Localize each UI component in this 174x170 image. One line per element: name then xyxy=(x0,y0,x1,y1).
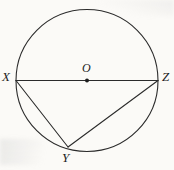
circle-center-point-dot xyxy=(85,79,89,83)
segment-zy-chord xyxy=(68,81,158,148)
point-label-x: X xyxy=(2,70,10,83)
point-label-o-center: O xyxy=(82,62,91,75)
circle-geometry-figure: X Z O Y xyxy=(0,0,174,170)
geometry-canvas xyxy=(0,0,174,170)
point-label-y: Y xyxy=(62,151,69,164)
point-label-z: Z xyxy=(162,70,169,83)
